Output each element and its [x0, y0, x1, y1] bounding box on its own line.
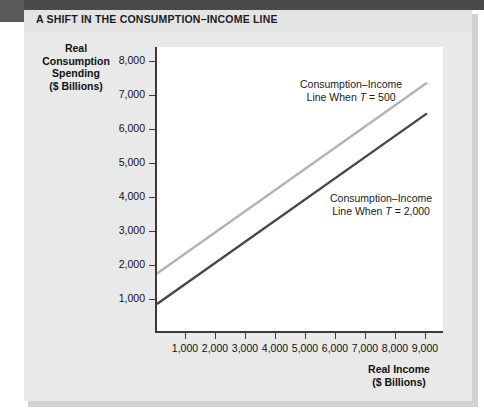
y-axis-tick-label: 4,000	[99, 190, 145, 202]
y-axis-tick-label: 7,000	[99, 88, 145, 100]
x-axis-tick-mark	[335, 333, 336, 339]
x-axis-tick-mark	[425, 333, 426, 339]
upper-line-label-line-2: Line When T = 500	[300, 91, 402, 104]
x-axis-tick-mark	[215, 333, 216, 339]
y-axis-tick-mark	[149, 61, 155, 62]
upper-line-label-line-1: Consumption–Income	[300, 78, 402, 91]
y-axis-tick-mark	[149, 129, 155, 130]
panel-shadow-right	[472, 14, 478, 405]
lower-line-label-line-1: Consumption–Income	[330, 192, 432, 205]
y-axis-tick-mark	[149, 299, 155, 300]
y-axis-tick-label: 1,000	[99, 292, 145, 304]
consumption-income-line-t500	[157, 83, 427, 274]
x-axis-tick-label: 9,000	[405, 342, 445, 354]
header-accent-corner	[0, 0, 24, 22]
lower-line-label-prefix: Line When	[332, 205, 385, 217]
lower-line-label-suffix: = 2,000	[392, 205, 430, 217]
y-axis-tick-mark	[149, 163, 155, 164]
y-axis-tick-mark	[149, 197, 155, 198]
y-axis-tick-label: 5,000	[99, 156, 145, 168]
x-axis-title-line-2: ($ Billions)	[343, 376, 455, 389]
lower-line-label: Consumption–Income Line When T = 2,000	[330, 192, 432, 218]
y-axis-tick-label: 8,000	[99, 54, 145, 66]
upper-line-label-prefix: Line When	[307, 91, 360, 103]
figure-title: A SHIFT IN THE CONSUMPTION–INCOME LINE	[36, 13, 278, 25]
x-axis-tick-mark	[305, 333, 306, 339]
x-axis-tick-mark	[245, 333, 246, 339]
x-axis-title-line-1: Real Income	[343, 363, 455, 376]
y-axis-tick-mark	[149, 265, 155, 266]
x-axis-title: Real Income ($ Billions)	[343, 363, 455, 388]
upper-line-label: Consumption–Income Line When T = 500	[300, 78, 402, 104]
x-axis-tick-mark	[365, 333, 366, 339]
y-axis-tick-mark	[149, 95, 155, 96]
lower-line-label-line-2: Line When T = 2,000	[330, 205, 432, 218]
header-accent-bar	[0, 0, 484, 10]
y-axis-title: Real Consumption Spending ($ Billions)	[28, 42, 124, 92]
y-axis-tick-label: 3,000	[99, 224, 145, 236]
x-axis-tick-mark	[275, 333, 276, 339]
y-axis-tick-mark	[149, 231, 155, 232]
y-axis-tick-label: 2,000	[99, 258, 145, 270]
x-axis-tick-mark	[185, 333, 186, 339]
figure-container: A SHIFT IN THE CONSUMPTION–INCOME LINE R…	[0, 0, 484, 411]
y-axis-tick-label: 6,000	[99, 122, 145, 134]
panel-shadow-bottom	[28, 401, 478, 407]
x-axis-tick-mark	[395, 333, 396, 339]
y-axis-title-line-3: Spending	[28, 67, 124, 80]
upper-line-label-suffix: = 500	[366, 91, 396, 103]
